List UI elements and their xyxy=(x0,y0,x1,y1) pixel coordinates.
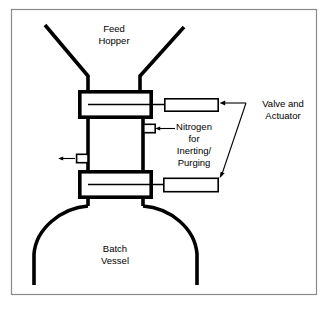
valve-actuator-label-line1: Valve and xyxy=(262,98,304,109)
batch-vessel-label-line2: Vessel xyxy=(101,255,129,266)
nitrogen-label-line2: for xyxy=(188,133,199,144)
lower-actuator xyxy=(164,178,218,191)
nitrogen-inlet-port xyxy=(144,124,155,132)
feed-hopper-label-line2: Hopper xyxy=(98,35,129,46)
diagram-frame xyxy=(12,10,317,295)
diagram-figure: Feed Hopper Batch Vessel Nitrogen for In… xyxy=(0,0,328,309)
upper-actuator xyxy=(165,99,218,111)
batch-vessel-label-line1: Batch xyxy=(103,243,127,254)
process-diagram: Feed Hopper Batch Vessel Nitrogen for In… xyxy=(0,0,328,309)
nitrogen-label-line4: Purging xyxy=(178,157,211,168)
valve-actuator-label-line2: Actuator xyxy=(265,110,300,121)
feed-hopper-label-line1: Feed xyxy=(103,23,125,34)
nitrogen-label-line1: Nitrogen xyxy=(176,121,212,132)
vent-outlet-port xyxy=(77,154,88,162)
nitrogen-label-line3: Inerting/ xyxy=(177,145,212,156)
